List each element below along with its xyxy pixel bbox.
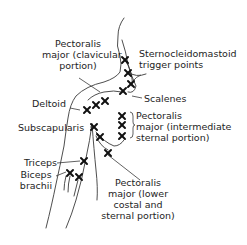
trigger-point-x-icon bbox=[81, 158, 87, 164]
trigger-point-x-icon bbox=[122, 57, 128, 63]
label-pectoralis-intermediate: Pectoralis major (intermediate sternal p… bbox=[136, 110, 231, 143]
label-sternocleidomastoid: Sternocleidomastoid trigger points bbox=[139, 48, 237, 70]
label-triceps: Triceps bbox=[24, 157, 57, 168]
trigger-point-x-icon bbox=[91, 124, 97, 130]
trigger-point-diagram: Pectoralis major (clavicular portion) St… bbox=[0, 0, 247, 245]
trigger-point-x-icon bbox=[105, 150, 111, 156]
trigger-point-x-icon bbox=[119, 113, 125, 119]
trigger-point-x-icon bbox=[119, 122, 125, 128]
trigger-point-x-icon bbox=[93, 102, 99, 108]
trigger-point-x-icon bbox=[97, 134, 103, 140]
trigger-point-x-icon bbox=[67, 170, 73, 176]
label-pectoralis-clavicular: Pectoralis major (clavicular portion) bbox=[42, 38, 114, 71]
label-biceps-brachii: Biceps brachii bbox=[16, 169, 56, 191]
trigger-point-x-icon bbox=[128, 81, 134, 87]
label-pectoralis-lower: Pectoralis major (lower costal and stern… bbox=[98, 177, 178, 221]
trigger-point-x-icon bbox=[76, 174, 82, 180]
trigger-point-x-icon bbox=[120, 88, 126, 94]
label-scalenes: Scalenes bbox=[144, 93, 186, 104]
trigger-point-x-icon bbox=[84, 107, 90, 113]
label-deltoid: Deltoid bbox=[32, 98, 66, 109]
trigger-point-x-icon bbox=[102, 98, 108, 104]
trigger-point-x-icon bbox=[119, 133, 125, 139]
label-subscapularis: Subscapularis bbox=[18, 122, 84, 133]
trigger-point-x-icon bbox=[125, 70, 131, 76]
